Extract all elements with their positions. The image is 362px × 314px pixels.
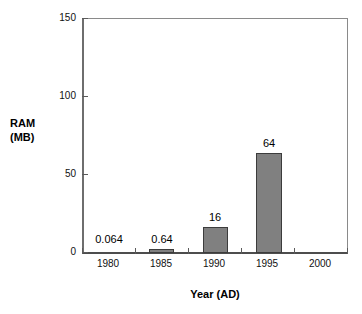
x-tick-mark-2 xyxy=(188,248,189,254)
y-tick-150: 150 xyxy=(48,13,76,23)
bar-1995 xyxy=(256,153,282,253)
y-axis-title-line2: (MB) xyxy=(10,130,72,144)
x-tick-mark-5 xyxy=(347,248,348,254)
y-tick-50: 50 xyxy=(48,169,76,179)
y-tick-mark-50 xyxy=(82,174,88,175)
bar-1985 xyxy=(149,249,174,253)
x-tick-mark-0 xyxy=(82,248,83,254)
bar-value-label-1990: 16 xyxy=(185,211,245,223)
x-tick-mark-1 xyxy=(135,248,136,254)
x-tick-label-1985: 1985 xyxy=(134,258,188,270)
y-tick-mark-100 xyxy=(82,96,88,97)
x-tick-mark-3 xyxy=(241,248,242,254)
y-axis-title: RAM (MB) xyxy=(10,116,72,144)
y-tick-label-150: 150 xyxy=(50,13,76,23)
y-tick-label-100: 100 xyxy=(50,91,76,101)
x-tick-mark-4 xyxy=(294,248,295,254)
x-tick-label-1990: 1990 xyxy=(187,258,241,270)
y-tick-label-0: 0 xyxy=(50,247,76,257)
bar-1990 xyxy=(203,227,228,253)
x-tick-label-1980: 1980 xyxy=(81,258,135,270)
bar-value-label-1980: 0.064 xyxy=(79,233,139,245)
bar-value-label-1995: 64 xyxy=(239,137,299,149)
y-axis-title-line1: RAM xyxy=(10,116,72,130)
x-tick-label-1995: 1995 xyxy=(240,258,294,270)
y-tick-label-50: 50 xyxy=(50,169,76,179)
bar-value-label-1985: 0.64 xyxy=(132,233,192,245)
y-axis-line xyxy=(82,18,84,253)
x-tick-label-2000: 2000 xyxy=(293,258,347,270)
ram-growth-bar-chart: 150 100 50 0 RAM (MB) 1980 1985 1990 199… xyxy=(0,0,362,314)
y-tick-100: 100 xyxy=(48,91,76,101)
y-tick-mark-150 xyxy=(82,18,88,19)
y-tick-0: 0 xyxy=(48,247,76,257)
x-axis-title: Year (AD) xyxy=(82,288,348,301)
